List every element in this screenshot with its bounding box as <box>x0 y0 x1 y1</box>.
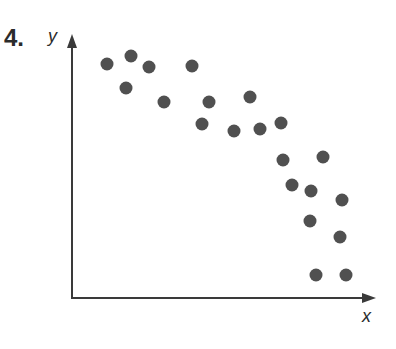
data-point <box>101 58 114 71</box>
data-point <box>305 185 318 198</box>
data-point <box>340 269 353 282</box>
data-point <box>143 61 156 74</box>
data-point <box>120 82 133 95</box>
data-point <box>186 60 199 73</box>
x-axis-arrow-icon <box>362 293 376 303</box>
data-point <box>158 96 171 109</box>
data-point <box>254 123 267 136</box>
data-point <box>228 125 241 138</box>
data-point <box>334 231 347 244</box>
axes <box>67 34 376 303</box>
scatter-plot <box>0 0 396 349</box>
data-point <box>304 215 317 228</box>
data-point <box>244 91 257 104</box>
data-point <box>277 154 290 167</box>
data-points <box>101 50 353 282</box>
data-point <box>336 194 349 207</box>
data-point <box>310 269 323 282</box>
data-point <box>317 151 330 164</box>
data-point <box>125 50 138 63</box>
data-point <box>286 179 299 192</box>
y-axis-arrow-icon <box>67 34 77 48</box>
data-point <box>196 118 209 131</box>
data-point <box>203 96 216 109</box>
data-point <box>275 117 288 130</box>
